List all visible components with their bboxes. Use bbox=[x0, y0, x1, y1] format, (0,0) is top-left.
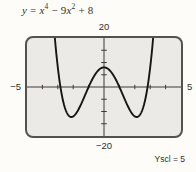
yscl-label: Yscl = 5 bbox=[155, 154, 185, 164]
y-min-label: −20 bbox=[96, 140, 112, 151]
calculator-screen bbox=[25, 36, 183, 138]
x-max-label: 5 bbox=[187, 81, 192, 92]
equation-label: y = x4 − 9x2 + 8 bbox=[22, 4, 94, 16]
equation-term-minus9: − 9 bbox=[48, 4, 66, 16]
equation-equals: = bbox=[27, 4, 39, 16]
y-max-label: 20 bbox=[99, 21, 110, 32]
textbook-figure: y = x4 − 9x2 + 8 20 −5 5 −20 Yscl = 5 bbox=[0, 0, 196, 172]
equation-term-plus8: + 8 bbox=[76, 4, 94, 16]
graph-svg bbox=[27, 38, 181, 136]
x-min-label: −5 bbox=[6, 81, 21, 92]
